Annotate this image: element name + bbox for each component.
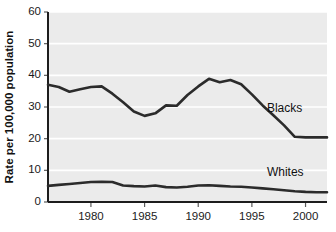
y-axis-title: Rate per 100,000 population [3,31,15,184]
series-label-whites: Whites [267,165,304,179]
y-tick-label: 50 [28,37,41,49]
y-tick-label: 60 [28,5,41,17]
x-tick-label: 1990 [185,210,211,222]
y-tick-label: 0 [35,195,41,207]
y-tick-label: 20 [28,132,41,144]
chart-container: 0102030405060 19801985199019952000 Black… [0,0,336,232]
x-tick-label: 1985 [132,210,158,222]
y-tick-label: 30 [28,100,41,112]
y-tick-label: 40 [28,68,41,80]
x-tick-label: 1980 [78,210,104,222]
x-tick-label: 2000 [293,210,319,222]
y-tick-label: 10 [28,163,41,175]
series-label-blacks: Blacks [267,101,302,115]
y-axis-ticks: 0102030405060 [28,5,48,207]
line-chart: 0102030405060 19801985199019952000 Black… [0,0,336,232]
x-axis-ticks: 19801985199019952000 [78,202,318,222]
x-tick-label: 1995 [239,210,265,222]
